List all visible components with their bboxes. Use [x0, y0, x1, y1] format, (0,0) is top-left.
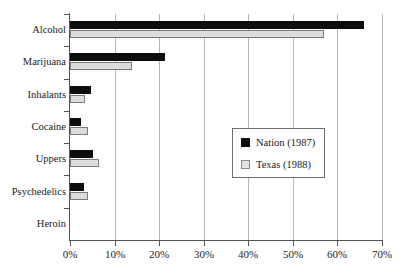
legend-label-texas: Texas (1988) — [256, 159, 311, 171]
x-tick-label: 30% — [181, 248, 227, 260]
bar-texas — [70, 62, 132, 70]
bar-nation — [70, 118, 81, 126]
bar-nation — [70, 21, 364, 29]
x-tick-label: 50% — [270, 248, 316, 260]
y-category-label: Marijuana — [23, 56, 66, 67]
bar-nation — [70, 150, 93, 158]
x-tick-label: 10% — [92, 248, 138, 260]
legend: Nation (1987) Texas (1988) — [232, 128, 325, 178]
x-tick — [115, 241, 116, 246]
bar-nation — [70, 53, 165, 61]
y-tick — [64, 46, 70, 47]
y-category-label: Heroin — [37, 218, 66, 229]
y-tick — [64, 79, 70, 80]
legend-label-nation: Nation (1987) — [256, 137, 315, 149]
bar-texas — [70, 192, 88, 200]
x-tick — [382, 241, 383, 246]
texas-swatch-icon — [241, 160, 250, 169]
y-category-label: Inhalants — [28, 89, 67, 100]
x-tick — [70, 241, 71, 246]
x-tick — [248, 241, 249, 246]
x-tick-label: 70% — [359, 248, 402, 260]
x-tick-label: 40% — [225, 248, 271, 260]
gridline — [204, 14, 205, 240]
gridline — [293, 14, 294, 240]
bar-texas — [70, 127, 88, 135]
x-tick — [293, 241, 294, 246]
y-tick — [64, 143, 70, 144]
y-category-label: Uppers — [36, 153, 66, 164]
bar-nation — [70, 183, 84, 191]
bar-nation — [70, 86, 91, 94]
gridline — [159, 14, 160, 240]
x-tick — [159, 241, 160, 246]
gridline — [115, 14, 116, 240]
y-category-label: Cocaine — [32, 121, 66, 132]
bar-chart: 0%10%20%30%40%50%60%70% AlcoholMarijuana… — [0, 0, 402, 275]
bar-texas — [70, 30, 324, 38]
y-tick — [64, 208, 70, 209]
gridline — [248, 14, 249, 240]
x-tick — [204, 241, 205, 246]
bar-texas — [70, 95, 85, 103]
x-tick — [337, 241, 338, 246]
nation-swatch-icon — [241, 138, 250, 147]
x-tick-label: 0% — [47, 248, 93, 260]
y-tick — [64, 14, 70, 15]
y-tick — [64, 111, 70, 112]
gridline — [337, 14, 338, 240]
bar-texas — [70, 159, 99, 167]
x-tick-label: 60% — [314, 248, 360, 260]
y-tick — [64, 175, 70, 176]
x-tick-label: 20% — [136, 248, 182, 260]
y-category-label: Alcohol — [32, 24, 66, 35]
gridline — [382, 14, 383, 240]
x-axis-line — [69, 240, 383, 241]
y-category-label: Psychedelics — [12, 186, 66, 197]
